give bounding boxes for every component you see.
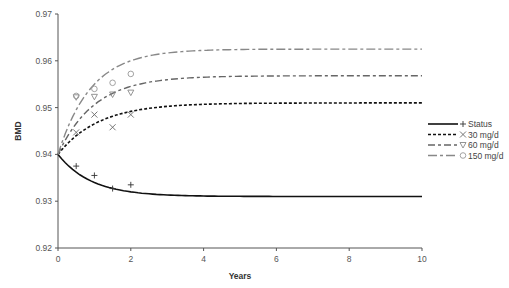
legend-label: 30 mg/d bbox=[468, 130, 499, 140]
data-point bbox=[110, 80, 116, 86]
markers bbox=[73, 71, 134, 191]
legend: Status30 mg/d60 mg/d150 mg/d bbox=[428, 119, 504, 161]
data-point bbox=[128, 112, 134, 118]
y-tick-label: 0.94 bbox=[35, 149, 52, 159]
y-tick-label: 0.93 bbox=[35, 196, 52, 206]
y-tick-label: 0.92 bbox=[35, 243, 52, 253]
bmd-chart: 0.920.930.940.950.960.970246810 Years BM… bbox=[0, 0, 509, 288]
y-tick-label: 0.96 bbox=[35, 56, 52, 66]
axes: 0.920.930.940.950.960.970246810 bbox=[35, 9, 427, 264]
y-tick-label: 0.97 bbox=[35, 9, 52, 19]
data-point bbox=[128, 90, 134, 96]
data-point bbox=[128, 182, 134, 188]
series-line-2 bbox=[58, 103, 422, 154]
x-tick-label: 10 bbox=[417, 254, 427, 264]
legend-label: 150 mg/d bbox=[468, 151, 504, 161]
legend-label: Status bbox=[468, 119, 492, 129]
x-axis-label: Years bbox=[229, 271, 252, 281]
data-point bbox=[73, 129, 79, 135]
legend-marker bbox=[460, 143, 466, 149]
legend-item-2: 30 mg/d bbox=[428, 130, 499, 140]
data-point bbox=[91, 112, 97, 118]
x-tick-label: 2 bbox=[128, 254, 133, 264]
y-axis-label: BMD bbox=[13, 121, 23, 140]
data-point bbox=[110, 186, 116, 192]
data-point bbox=[73, 163, 79, 169]
legend-marker bbox=[460, 121, 466, 127]
data-point bbox=[92, 86, 98, 92]
x-tick-label: 0 bbox=[56, 254, 61, 264]
legend-marker bbox=[460, 153, 466, 159]
series-line-3 bbox=[58, 76, 422, 155]
series-line-4 bbox=[58, 49, 422, 154]
y-tick-label: 0.95 bbox=[35, 103, 52, 113]
x-tick-label: 6 bbox=[274, 254, 279, 264]
legend-item-4: 150 mg/d bbox=[428, 151, 504, 161]
data-point bbox=[91, 172, 97, 178]
data-point bbox=[110, 124, 116, 130]
x-tick-label: 4 bbox=[201, 254, 206, 264]
legend-label: 60 mg/d bbox=[468, 140, 499, 150]
x-tick-label: 8 bbox=[347, 254, 352, 264]
data-point bbox=[91, 94, 97, 100]
legend-item-1: Status bbox=[428, 119, 492, 129]
legend-item-3: 60 mg/d bbox=[428, 140, 499, 150]
legend-marker bbox=[460, 132, 466, 138]
curves bbox=[58, 49, 422, 196]
data-point bbox=[128, 71, 134, 77]
